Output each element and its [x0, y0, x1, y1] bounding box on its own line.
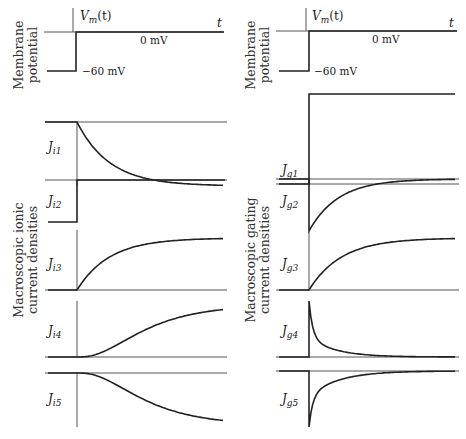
- time-label: t: [449, 16, 454, 30]
- current-trace-i3: [48, 239, 223, 290]
- group-label-line1: Macroscopic ionic: [11, 202, 26, 317]
- trace-panel-i3: Ji3: [45, 230, 227, 290]
- trace-panel-i4: Ji4: [45, 301, 227, 357]
- voltage-step-trace: [279, 31, 457, 71]
- level-low-label: −60 mV: [82, 65, 125, 77]
- group-label-line1: Macroscopic gating: [243, 197, 258, 322]
- trace-label-g4: Jg4: [279, 324, 299, 340]
- figure: Membrane potential Vm(t) t 0 mV −60 mV M…: [0, 0, 466, 439]
- membrane-ylabel-line2: potential: [25, 27, 40, 83]
- trace-panel-g5: Jg5: [276, 371, 459, 427]
- voltage-step-trace: [47, 32, 224, 71]
- trace-panel-i5: Ji5: [45, 373, 227, 427]
- trace-label-i4: Ji4: [45, 324, 62, 340]
- traces-ionic: Ji1Ji2Ji3Ji4Ji5: [45, 122, 227, 427]
- column-gating: Membrane potential Vm(t) t 0 mV −60 mV M…: [243, 8, 459, 427]
- current-trace-i2: [48, 180, 225, 222]
- level-low-label: −60 mV: [314, 65, 357, 77]
- group-label-line2: current densities: [257, 206, 272, 314]
- trace-label-i2: Ji2: [45, 194, 62, 210]
- traces-gating: Jg1Jg2Jg3Jg4Jg5: [276, 94, 459, 427]
- trace-label-g3: Jg3: [279, 257, 299, 273]
- current-trace-g1: [279, 94, 455, 184]
- membrane-panel-gating: Membrane potential Vm(t) t 0 mV −60 mV: [243, 8, 457, 89]
- trace-label-g2: Jg2: [279, 194, 299, 210]
- current-trace-g2: [279, 179, 455, 231]
- group-label-line2: current densities: [25, 206, 40, 314]
- membrane-panel-ionic: Membrane potential Vm(t) t 0 mV −60 mV: [11, 8, 224, 89]
- trace-label-i5: Ji5: [45, 392, 62, 408]
- trace-panel-i2: Ji2: [45, 180, 227, 222]
- level-high-label: 0 mV: [372, 33, 400, 45]
- trace-label-g1: Jg1: [279, 163, 298, 179]
- membrane-ylabel-line2: potential: [257, 27, 272, 83]
- membrane-ylabel-line1: Membrane: [243, 21, 258, 90]
- trace-label-i1: Ji1: [45, 140, 61, 156]
- time-label: t: [217, 16, 222, 30]
- trace-panel-g3: Jg3: [276, 230, 459, 290]
- current-trace-i5: [48, 373, 223, 420]
- trace-panel-g1: Jg1: [276, 94, 459, 184]
- current-trace-i4: [48, 310, 223, 357]
- signal-label: Vm(t): [80, 9, 111, 25]
- membrane-ylabel-line1: Membrane: [11, 21, 26, 90]
- trace-panel-i1: Ji1: [45, 122, 227, 186]
- signal-label: Vm(t): [312, 9, 343, 25]
- current-trace-g3: [279, 239, 455, 290]
- trace-label-i3: Ji3: [45, 257, 62, 273]
- trace-panel-g2: Jg2: [276, 179, 459, 231]
- current-trace-g4: [279, 301, 455, 357]
- level-high-label: 0 mV: [140, 34, 168, 46]
- trace-panel-g4: Jg4: [276, 301, 459, 357]
- current-trace-i1: [45, 122, 223, 185]
- trace-label-g5: Jg5: [279, 392, 299, 408]
- current-trace-g5: [279, 371, 455, 427]
- column-ionic: Membrane potential Vm(t) t 0 mV −60 mV M…: [11, 8, 227, 427]
